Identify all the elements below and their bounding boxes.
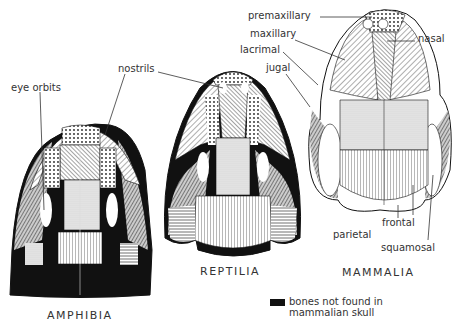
caption-reptilia: REPTILIA — [200, 265, 260, 278]
label-squamosal: squamosal — [381, 243, 435, 253]
legend-line1: bones not found in — [289, 296, 383, 307]
skull-diagram — [0, 0, 456, 329]
legend: bones not found in mammalian skull — [270, 296, 383, 318]
amphibia-skull — [10, 124, 152, 298]
label-frontal: frontal — [382, 218, 415, 228]
label-maxillary: maxillary — [250, 29, 296, 39]
legend-swatch — [270, 299, 285, 306]
label-lacrimal: lacrimal — [240, 45, 280, 55]
label-nasal: nasal — [418, 34, 445, 44]
label-premaxillary: premaxillary — [248, 11, 311, 21]
caption-amphibia: AMPHIBIA — [47, 309, 112, 322]
label-eye-orbits: eye orbits — [11, 83, 61, 93]
label-nostrils: nostrils — [118, 64, 154, 74]
reptilia-skull — [164, 72, 300, 257]
label-jugal: jugal — [266, 63, 290, 73]
legend-line2: mammalian skull — [270, 307, 383, 318]
caption-mammalia: MAMMALIA — [342, 266, 414, 279]
label-parietal: parietal — [333, 230, 371, 240]
